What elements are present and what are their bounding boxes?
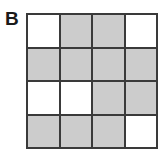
grid-cell (28, 15, 59, 47)
grid-cell (61, 82, 92, 114)
panel-label: B (5, 8, 19, 30)
grid-cell (93, 82, 124, 114)
cell-grid (28, 15, 156, 147)
grid-cell (93, 15, 124, 47)
grid-cell (126, 116, 157, 148)
grid-cell (93, 49, 124, 81)
grid-cell (28, 49, 59, 81)
grid-border (26, 13, 158, 149)
grid-cell (61, 49, 92, 81)
figure-panel-b: B (0, 0, 167, 161)
grid-cell (93, 116, 124, 148)
grid-cell (126, 82, 157, 114)
grid-cell (61, 15, 92, 47)
grid-cell (28, 116, 59, 148)
grid-cell (28, 82, 59, 114)
grid-cell (126, 49, 157, 81)
grid-cell (61, 116, 92, 148)
grid-cell (126, 15, 157, 47)
